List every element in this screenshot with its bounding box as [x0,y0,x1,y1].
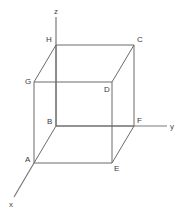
cube-edges-group [34,45,134,163]
axis-label-x: x [9,201,13,209]
vertex-label-H: H [46,36,52,44]
vertex-label-C: C [137,36,143,44]
vertex-label-A: A [25,156,30,164]
axes-group [14,17,167,197]
edge-B-A [34,126,56,163]
edge-H-G [34,45,56,82]
vertex-label-B: B [47,118,52,126]
vertex-label-G: G [25,78,31,86]
cube-diagram: xyzABCDEFGH [0,0,188,218]
axis-label-y: y [170,123,174,131]
edge-F-E [112,126,134,163]
axis-line-x [14,163,34,197]
vertex-label-E: E [114,165,119,173]
vertex-label-F: F [137,117,142,125]
axis-label-z: z [54,8,58,16]
cube-geometry-canvas [0,0,188,218]
edge-C-D [112,45,134,82]
vertex-label-D: D [104,86,110,94]
